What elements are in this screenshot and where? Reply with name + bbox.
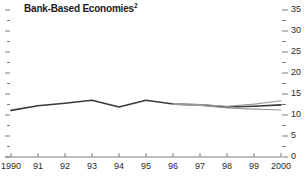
x-axis-label: 97 bbox=[185, 161, 215, 171]
x-axis-label: 94 bbox=[104, 161, 134, 171]
y-axis-label: 10 bbox=[291, 109, 301, 119]
x-axis-label: 93 bbox=[77, 161, 107, 171]
x-axis-label: 96 bbox=[158, 161, 188, 171]
x-axis-label: 98 bbox=[212, 161, 242, 171]
y-axis-label: 25 bbox=[291, 46, 301, 56]
data-series-layer bbox=[11, 100, 281, 110]
x-axis-label: 91 bbox=[23, 161, 53, 171]
left-axis-ticks bbox=[5, 10, 10, 157]
y-axis-label: 35 bbox=[291, 4, 301, 14]
y-axis-label: 30 bbox=[291, 25, 301, 35]
chart-plot-area bbox=[0, 0, 306, 179]
chart-container: Bank-Based Economies2 05101520253035 199… bbox=[0, 0, 306, 179]
x-axis-label: 92 bbox=[50, 161, 80, 171]
right-axis-ticks bbox=[282, 10, 288, 157]
y-axis-label: 5 bbox=[291, 130, 296, 140]
x-axis-label: 95 bbox=[131, 161, 161, 171]
x-axis-label: 99 bbox=[239, 161, 269, 171]
y-axis-label: 20 bbox=[291, 67, 301, 77]
x-axis-label: 2000 bbox=[266, 161, 296, 171]
y-axis-label: 15 bbox=[291, 88, 301, 98]
y-axis-label: 0 bbox=[291, 151, 296, 161]
